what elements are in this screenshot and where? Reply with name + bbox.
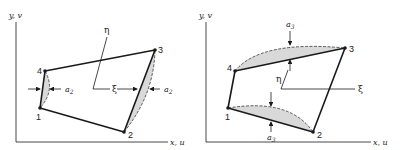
- left-x-axis-label: x, u: [170, 138, 185, 147]
- left-xi-label: ξ: [112, 84, 117, 94]
- right-node-4-label: 4: [227, 63, 232, 73]
- right-eta-label: η: [276, 74, 281, 84]
- left-a2-label-1: a2: [65, 85, 74, 95]
- left-node-2: [122, 130, 126, 134]
- right-node-2: [311, 130, 315, 134]
- left-a2-label-2: a2: [164, 85, 173, 95]
- right-node-3: [343, 46, 347, 50]
- right-node-3-label: 3: [349, 44, 354, 54]
- right-eta-axis: [281, 70, 288, 89]
- right-a3-label-top: a3: [286, 20, 295, 30]
- left-node-4-label: 4: [37, 66, 42, 76]
- left-eta-label: η: [104, 25, 109, 35]
- left-element-outline: [40, 50, 155, 132]
- right-xi-label: ξ: [358, 84, 363, 94]
- incompatible-modes-diagram: y, v x, u 1 2 3 4 η ξ a2 a2: [0, 0, 401, 150]
- left-node-3: [153, 48, 157, 52]
- left-node-3-label: 3: [158, 45, 163, 55]
- right-diagram: y, v x, u 1 2 3 4 η ξ a3 a3: [198, 11, 388, 147]
- right-x-axis-label: x, u: [373, 138, 388, 147]
- right-node-2-label: 2: [317, 130, 322, 140]
- right-node-1: [226, 106, 230, 110]
- left-node-1-label: 1: [36, 112, 41, 122]
- right-node-4: [233, 69, 237, 73]
- left-node-4: [43, 69, 47, 73]
- left-node-1: [38, 106, 42, 110]
- left-node-2-label: 2: [128, 130, 133, 140]
- right-node-1-label: 1: [225, 112, 230, 122]
- left-y-axis-label: y, v: [8, 11, 23, 20]
- left-diagram: y, v x, u 1 2 3 4 η ξ a2 a2: [8, 11, 185, 147]
- right-a3-label-bottom: a3: [267, 133, 276, 143]
- right-y-axis-label: y, v: [198, 11, 213, 20]
- left-eta-axis: [93, 37, 107, 89]
